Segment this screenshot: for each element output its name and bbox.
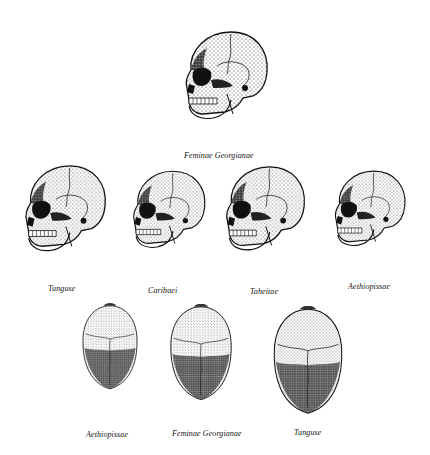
- caption-tunguse-superior: Tunguse: [294, 428, 321, 437]
- caption-aethiopissae-superior: Aethiopissae: [86, 430, 128, 439]
- skull-tunguse-lateral: [12, 160, 112, 258]
- skull-aethiopissae-superior: [78, 298, 142, 398]
- caption-aethiopissae: Aethiopissae: [348, 282, 390, 291]
- caption-top: Feminae Georgianae: [184, 151, 254, 160]
- skull-feminae-georgianae-superior: [164, 304, 238, 404]
- illustration-plate: Feminae Georgianae Tunguse Caribaei Tahe…: [0, 0, 430, 455]
- caption-taheitae: Taheitae: [250, 287, 278, 296]
- skull-aethiopissae-lateral: [324, 164, 410, 254]
- caption-feminae-georgianae-superior: Feminae Georgianae: [172, 429, 242, 438]
- skull-feminae-georgianae-lateral: [168, 26, 278, 126]
- caption-caribaei: Caribaei: [148, 286, 177, 295]
- skull-caribaei-lateral: [122, 164, 210, 256]
- skull-taheitae-lateral: [214, 160, 310, 258]
- caption-tunguse: Tunguse: [48, 284, 75, 293]
- skull-tunguse-superior: [268, 306, 348, 418]
